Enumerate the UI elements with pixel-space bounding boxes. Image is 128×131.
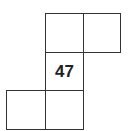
cell-r2-c1: [45, 90, 84, 130]
cell-r2-c0: [6, 90, 47, 130]
cell-r0-c1: [45, 13, 84, 53]
cell-r0-c2: [83, 13, 121, 53]
cell-r1-c1-number: 47: [45, 52, 84, 92]
